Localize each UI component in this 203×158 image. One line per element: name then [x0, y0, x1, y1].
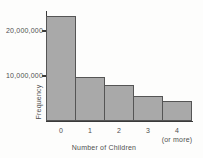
x-axis-line — [46, 121, 193, 122]
y-tick-label-20,000,000: 20,000,000 — [0, 26, 43, 35]
histogram-number-of-children: Frequency 20,000,00010,000,00001234 (or … — [0, 0, 203, 158]
x-tick-label-0: 0 — [46, 126, 76, 135]
x-tick-label-4: 4 — [162, 126, 192, 135]
bar-1-children — [75, 77, 105, 121]
bar-4-children — [162, 101, 192, 121]
y-tick-label-10,000,000: 10,000,000 — [0, 71, 43, 80]
bar-2-children — [104, 85, 134, 121]
x-tick-label-1: 1 — [75, 126, 105, 135]
bar-3-children — [133, 96, 163, 121]
x-tick-label-3: 3 — [133, 126, 163, 135]
x-axis-title: Number of Children — [34, 143, 174, 152]
bar-0-children — [46, 16, 76, 121]
x-tick-label-2: 2 — [104, 126, 134, 135]
y-axis-title: Frequency — [34, 42, 46, 158]
